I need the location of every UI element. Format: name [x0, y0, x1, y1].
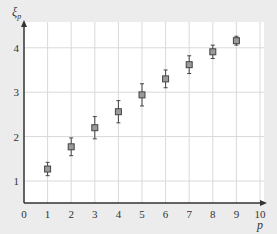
x-tick-label: 4: [116, 208, 122, 220]
x-tick-label: 2: [68, 208, 74, 220]
x-tick-label: 0: [21, 208, 27, 220]
square-marker-icon: [45, 166, 51, 172]
x-tick-label: 7: [186, 208, 192, 220]
data-point: [233, 36, 239, 45]
x-tick-label: 3: [92, 208, 98, 220]
square-marker-icon: [115, 109, 121, 115]
x-tick-label: 8: [210, 208, 216, 220]
square-marker-icon: [163, 76, 169, 82]
square-marker-icon: [68, 144, 74, 150]
x-tick-label: 9: [234, 208, 240, 220]
plot-area: [24, 22, 264, 203]
square-marker-icon: [92, 125, 98, 131]
x-tick-label: 1: [45, 208, 51, 220]
x-tick-label: 5: [139, 208, 145, 220]
y-tick-label: 1: [14, 175, 20, 187]
y-tick-label: 4: [14, 42, 20, 54]
square-marker-icon: [139, 92, 145, 98]
x-axis-label: p: [256, 218, 263, 232]
square-marker-icon: [186, 62, 192, 68]
chart: 012345678910 1234 p ξp: [0, 0, 277, 234]
y-tick-label: 3: [14, 86, 20, 98]
y-tick-label: 2: [14, 131, 20, 143]
square-marker-icon: [233, 38, 239, 44]
x-tick-label: 6: [163, 208, 169, 220]
square-marker-icon: [210, 49, 216, 55]
